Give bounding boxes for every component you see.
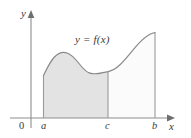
- curve-equation-label: y = f(x): [75, 34, 110, 45]
- area-under-curve-figure: y x 0 a c b y = f(x): [0, 0, 191, 138]
- y-axis-label: y: [21, 8, 26, 19]
- origin-label: 0: [19, 121, 24, 132]
- tick-label-c: c: [105, 121, 110, 132]
- region-a-to-c: [44, 52, 109, 118]
- region-c-to-b: [108, 33, 155, 118]
- tick-label-a: a: [41, 121, 46, 132]
- tick-label-b: b: [152, 121, 157, 132]
- figure-canvas: [0, 0, 191, 138]
- y-axis-arrow-icon: [28, 10, 35, 18]
- x-axis-label: x: [169, 121, 174, 132]
